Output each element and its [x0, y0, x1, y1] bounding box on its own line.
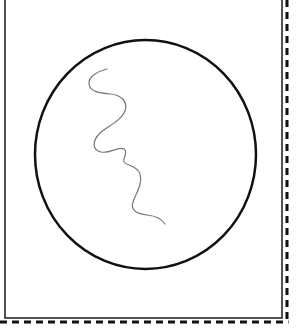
specimen-filament [89, 69, 165, 224]
diagram-canvas [0, 0, 298, 332]
inner-border [5, 0, 282, 318]
field-of-view-circle [35, 40, 256, 269]
